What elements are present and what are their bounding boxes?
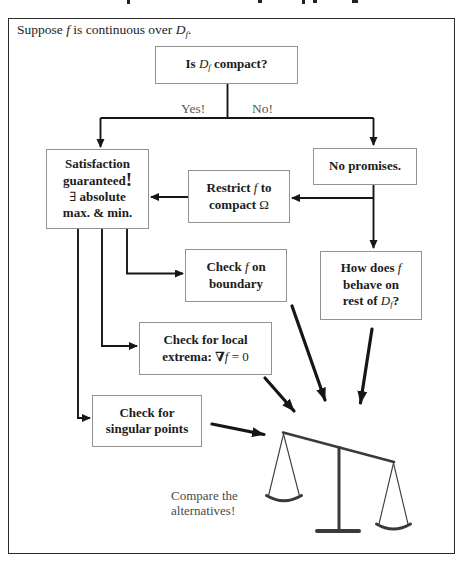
box-label: on [249, 259, 266, 274]
box-label: Check [206, 259, 245, 274]
box-label: behave on [343, 277, 399, 293]
premise-text: Suppose f is continuous over Df. [17, 22, 191, 39]
box-label: ? [393, 293, 400, 308]
box-label: Restrict [207, 180, 254, 195]
box-label: max. & min. [63, 205, 132, 221]
premise-segment: is continuous over [70, 22, 176, 37]
no-branch-label: No! [252, 101, 273, 117]
math-D: D [176, 22, 186, 37]
box-label: guaranteed [63, 173, 126, 188]
box-check-boundary: Check f on boundary [185, 249, 287, 302]
box-label: How does [341, 260, 398, 275]
premise-segment: . [188, 22, 191, 37]
box-is-df-compact: Is Df compact? [155, 46, 298, 84]
box-label: compact? [211, 56, 268, 71]
math-D: D [381, 293, 390, 308]
yes-branch-label: Yes! [181, 101, 205, 117]
box-label: rest of [343, 293, 381, 308]
box-restrict-to-compact: Restrict f to compact Ω [188, 170, 290, 223]
box-label: Check for local [163, 332, 247, 348]
box-label: absolute [76, 189, 125, 204]
box-label: = 0 [228, 349, 248, 364]
omega-symbol: Ω [259, 197, 269, 212]
premise-segment: Suppose [17, 22, 66, 37]
box-label: to [257, 180, 271, 195]
cropped-text-fragment [352, 0, 358, 3]
box-satisfaction-guaranteed: Satisfaction guaranteed! ∃ absolute max.… [46, 149, 149, 229]
cropped-text-fragment [258, 0, 262, 3]
box-label: Satisfaction [65, 156, 130, 172]
math-f: f [398, 260, 402, 275]
box-how-behave-rest: How does f behave on rest of Df? [320, 251, 422, 320]
cropped-text-fragment [302, 0, 305, 4]
flowchart-figure: Suppose f is continuous over Df. Is Df c… [0, 0, 466, 567]
box-label: Is [186, 56, 199, 71]
exclamation-glyph: ! [126, 169, 132, 190]
box-label: singular points [106, 421, 189, 437]
box-label: Check for [119, 405, 174, 421]
nabla-symbol: ∇ [215, 349, 225, 364]
box-no-promises: No promises. [313, 148, 417, 185]
box-label: extrema: [162, 349, 215, 364]
box-label: No promises. [329, 158, 401, 174]
box-label: compact [209, 197, 259, 212]
caption-line: Compare the [171, 488, 238, 503]
caption-compare-alternatives: Compare the alternatives! [171, 488, 238, 518]
box-check-singular-points: Check for singular points [92, 395, 202, 447]
cropped-text-fragment [127, 0, 130, 4]
box-check-local-extrema: Check for local extrema: ∇f = 0 [139, 322, 272, 375]
caption-line: alternatives! [171, 503, 238, 518]
cropped-text-fragment [313, 0, 317, 3]
box-label: boundary [209, 276, 263, 292]
math-D: D [199, 56, 208, 71]
